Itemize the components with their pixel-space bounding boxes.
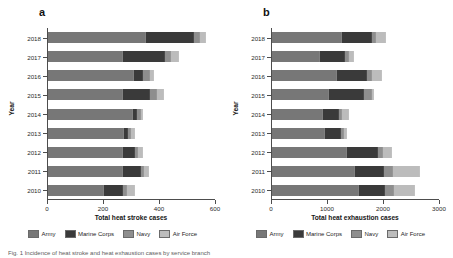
panel-a-plot-area: Total heat stroke cases 0200400600201820… — [47, 28, 215, 200]
panel-b-bar-segment-navy — [364, 89, 372, 100]
panel-a-y-axis-title: Year — [8, 89, 15, 129]
panel-a-legend-label-marine: Marine Corps — [78, 231, 114, 237]
panel-b-bar-segment-air — [376, 32, 385, 43]
panel-a-y-tick — [43, 133, 47, 134]
panel-b-y-tick-label-2015: 2015 — [251, 91, 265, 98]
panel-b-bar-segment-air — [342, 109, 349, 120]
panel-a-bar-segment-army — [48, 70, 134, 81]
panel-a-bar-segment-air — [138, 147, 143, 158]
panel-b-bar-segment-air — [372, 70, 381, 81]
panel-a-bar-segment-army — [48, 109, 133, 120]
panel-b-y-tick — [267, 133, 271, 134]
panel-b-y-tick-label-2011: 2011 — [252, 168, 265, 175]
panel-a-y-tick-label-2012: 2012 — [27, 149, 41, 156]
panel-b-x-tick — [383, 200, 384, 204]
panel-a-bar-segment-marine — [123, 89, 150, 100]
panel-a-bar-segment-army — [48, 166, 123, 177]
panel-a-bar-2016 — [48, 70, 154, 81]
panel-a-y-tick-label-2011: 2011 — [28, 168, 41, 175]
panel-b-legend: ArmyMarine CorpsNavyAir Force — [256, 228, 425, 240]
panel-b-legend-item-navy: Navy — [351, 230, 378, 238]
panel-a-bar-2017 — [48, 51, 179, 62]
panel-a-bar-segment-air — [131, 128, 135, 139]
panel-b-letter: b — [263, 6, 270, 18]
panel-b-y-tick-label-2016: 2016 — [251, 72, 265, 79]
panel-b-x-tick — [439, 200, 440, 204]
panel-a-bar-segment-army — [48, 147, 123, 158]
panel-b-bar-segment-navy — [385, 185, 393, 196]
panel-a-y-tick-label-2017: 2017 — [27, 53, 41, 60]
panel-a-y-tick — [43, 38, 47, 39]
panel-b-bar-segment-air — [394, 185, 415, 196]
panel-a-y-tick-label-2014: 2014 — [27, 111, 41, 118]
panel-b-bar-segment-marine — [323, 109, 339, 120]
panel-a-bar-segment-marine — [146, 32, 193, 43]
panel-a-bar-segment-air — [171, 51, 179, 62]
panel-b-bar-segment-marine — [329, 89, 364, 100]
panel-b-legend-item-air: Air Force — [387, 230, 425, 238]
panel-b-bar-segment-air — [372, 89, 374, 100]
panel-a-x-axis-line — [47, 199, 215, 200]
panel-a-y-tick-label-2010: 2010 — [27, 187, 41, 194]
panel-b-bar-segment-navy — [384, 166, 392, 177]
panel-b-bar-2016 — [272, 70, 382, 81]
panel-b-bar-segment-marine — [342, 32, 372, 43]
panel-b-bar-segment-army — [272, 109, 323, 120]
panel-b-bar-segment-army — [272, 185, 359, 196]
panel-b-legend-swatch-army — [256, 230, 267, 238]
panel-a-bar-segment-army — [48, 128, 124, 139]
panel-b-x-axis-title: Total heat exhaustion cases — [311, 214, 398, 221]
panel-b-bar-segment-marine — [325, 128, 341, 139]
panel-b-x-axis-line — [271, 199, 439, 200]
panel-a-x-tick-label: 200 — [98, 205, 108, 212]
panel-b-legend-swatch-navy — [351, 230, 362, 238]
panel-a-y-tick — [43, 114, 47, 115]
panel-b-y-tick — [267, 38, 271, 39]
panel-a-letter: a — [39, 6, 45, 18]
panel-b-y-tick-label-2013: 2013 — [251, 130, 265, 137]
panel-a-legend-swatch-navy — [123, 230, 134, 238]
panel-a-legend-label-army: Army — [42, 231, 56, 237]
panel-a-bar-segment-marine — [134, 70, 143, 81]
panel-a-x-tick — [159, 200, 160, 204]
panel-b-bar-segment-army — [272, 89, 329, 100]
panel-b-bar-segment-army — [272, 128, 325, 139]
panel-a-bar-segment-army — [48, 185, 104, 196]
figure-container: a Year Total heat stroke cases 020040060… — [0, 0, 453, 258]
panel-b-y-tick-label-2010: 2010 — [251, 187, 265, 194]
panel-b-legend-label-army: Army — [270, 231, 284, 237]
panel-a-x-tick — [47, 200, 48, 204]
panel-b-y-tick — [267, 57, 271, 58]
panel-b-bar-segment-marine — [359, 185, 386, 196]
panel-a-legend-item-navy: Navy — [123, 230, 150, 238]
panel-b-bar-segment-marine — [320, 51, 345, 62]
panel-a-x-tick-label: 400 — [154, 205, 164, 212]
panel-b: b Year Total heat exhaustion cases 01000… — [227, 0, 453, 240]
figure-caption: Fig. 1 Incidence of heat stroke and heat… — [8, 250, 448, 257]
panel-a-y-tick-label-2018: 2018 — [27, 34, 41, 41]
panel-a-legend-swatch-air — [159, 230, 170, 238]
panel-b-legend-label-marine: Marine Corps — [306, 231, 342, 237]
panel-b-bar-segment-air — [349, 51, 354, 62]
panel-a: a Year Total heat stroke cases 020040060… — [0, 0, 226, 240]
panel-a-y-tick-label-2013: 2013 — [27, 130, 41, 137]
panel-b-y-tick-label-2018: 2018 — [251, 34, 265, 41]
panel-a-bar-segment-air — [141, 109, 144, 120]
panel-b-bar-segment-air — [344, 128, 347, 139]
panel-b-y-tick — [267, 95, 271, 96]
panel-b-legend-item-army: Army — [256, 230, 284, 238]
panel-a-bar-2011 — [48, 166, 149, 177]
panel-a-bar-segment-air — [144, 166, 149, 177]
panel-b-y-axis-title: Year — [232, 89, 239, 129]
panel-b-legend-swatch-marine — [293, 230, 304, 238]
panel-b-bar-segment-air — [383, 147, 392, 158]
panel-a-bar-segment-air — [127, 185, 135, 196]
panel-b-x-tick — [327, 200, 328, 204]
panel-b-legend-item-marine: Marine Corps — [293, 230, 343, 238]
panel-a-bar-segment-army — [48, 89, 123, 100]
panel-a-y-tick — [43, 152, 47, 153]
panel-a-bar-2018 — [48, 32, 206, 43]
panel-a-y-tick — [43, 57, 47, 58]
panel-b-bar-segment-army — [272, 70, 337, 81]
panel-b-bar-segment-army — [272, 51, 320, 62]
